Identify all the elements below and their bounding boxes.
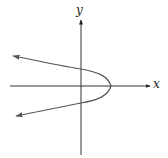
x-axis-label: x — [153, 78, 160, 90]
parabola-graph — [0, 0, 168, 158]
parabola-lower-branch — [16, 86, 111, 116]
parabola-upper-branch — [13, 56, 111, 86]
y-axis-label: y — [76, 4, 83, 16]
